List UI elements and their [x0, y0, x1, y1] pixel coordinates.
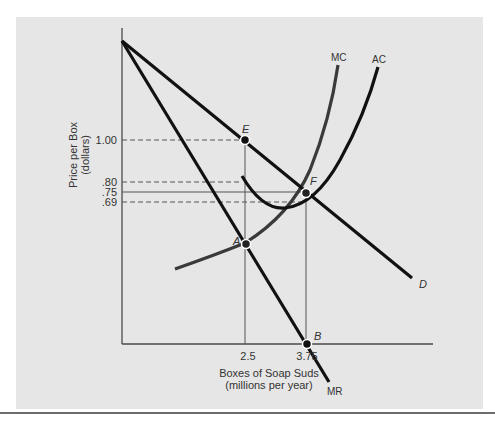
label-b: B: [314, 330, 321, 342]
point-b: [303, 340, 312, 349]
x-axis-title-line1: Boxes of Soap Suds: [219, 367, 319, 379]
point-f: [302, 189, 311, 198]
label-f: F: [310, 175, 318, 187]
label-ac: AC: [372, 54, 386, 65]
point-a: [242, 240, 251, 249]
label-a: A: [232, 235, 240, 247]
chart-canvas: E A F B MC AC D MR 1.00 .80 .75 .69 2.5 …: [0, 0, 495, 426]
label-e: E: [242, 123, 250, 135]
y-tick-.69: .69: [102, 196, 117, 208]
mr-curve: [122, 41, 329, 382]
x-tick-3.75: 3.75: [296, 350, 317, 362]
label-mc: MC: [331, 52, 347, 63]
point-e: [241, 136, 250, 145]
y-axis-title-line2: (dollars): [79, 135, 91, 175]
x-tick-2.5: 2.5: [240, 350, 255, 362]
y-tick-1.00: 1.00: [96, 134, 117, 146]
demand-curve: [122, 41, 412, 278]
label-mr: MR: [327, 386, 343, 397]
x-axis-title-line2: (millions per year): [225, 379, 312, 391]
y-axis-title-line1: Price per Box: [67, 121, 79, 188]
label-d: D: [419, 278, 427, 290]
